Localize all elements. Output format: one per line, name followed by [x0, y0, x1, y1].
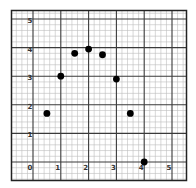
x-tick-label: 5 — [167, 164, 172, 172]
data-point — [141, 159, 148, 166]
y-tick-label: 3 — [28, 74, 33, 82]
y-tick-label: 4 — [28, 46, 33, 54]
x-tick-label: 0 — [28, 164, 33, 172]
y-axis-tick-labels: 12345 — [28, 17, 33, 139]
data-points — [44, 46, 148, 166]
minor-grid — [12, 11, 187, 181]
data-point — [99, 51, 106, 58]
x-tick-label: 4 — [139, 164, 144, 172]
scatter-chart: 012345 12345 — [0, 0, 196, 188]
x-tick-label: 1 — [55, 164, 60, 172]
data-point — [71, 50, 78, 57]
data-point — [44, 110, 51, 117]
data-point — [85, 46, 92, 53]
data-point — [127, 110, 134, 117]
x-tick-label: 3 — [111, 164, 116, 172]
y-tick-label: 2 — [28, 103, 33, 111]
y-tick-label: 1 — [28, 131, 33, 139]
data-point — [113, 76, 120, 83]
y-tick-label: 5 — [28, 17, 33, 25]
x-tick-label: 2 — [83, 164, 88, 172]
data-point — [57, 73, 64, 80]
